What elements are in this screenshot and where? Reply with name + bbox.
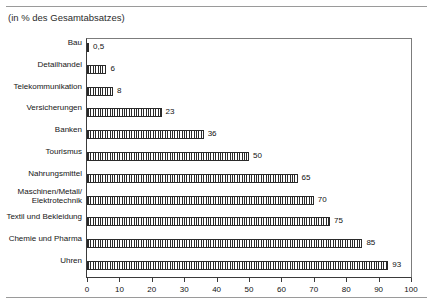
bar-value-label: 93: [392, 257, 401, 273]
bar: [87, 108, 162, 117]
bar-row: Detailhandel6: [0, 60, 433, 80]
x-axis-tick-label: 70: [309, 285, 318, 294]
x-axis-tick: [379, 278, 380, 282]
bar-row: Textil und Bekleidung75: [0, 212, 433, 232]
x-axis-tick-label: 60: [277, 285, 286, 294]
bar-value-label: 70: [318, 192, 327, 208]
x-axis-tick: [184, 278, 185, 282]
bar-value-label: 8: [117, 83, 121, 99]
bar-row: Telekommunikation8: [0, 82, 433, 102]
category-label: Uhren: [0, 256, 82, 266]
x-axis-tick-label: 80: [342, 285, 351, 294]
bar: [87, 239, 362, 248]
bar: [87, 174, 298, 183]
footer-divider: [6, 297, 427, 298]
x-axis-tick-label: 40: [212, 285, 221, 294]
bar-value-label: 75: [334, 213, 343, 229]
category-label: Maschinen/Metall/ Elektrotechnik: [0, 187, 82, 206]
x-axis-tick-label: 50: [245, 285, 254, 294]
header-divider: [6, 6, 427, 7]
bar-value-label: 65: [302, 170, 311, 186]
x-axis-tick: [87, 278, 88, 282]
bar-row: Bau0,5: [0, 38, 433, 58]
bar-value-label: 85: [366, 235, 375, 251]
bar: [87, 65, 106, 74]
category-label: Telekommunikation: [0, 82, 82, 92]
x-axis-tick: [119, 278, 120, 282]
category-label: Versicherungen: [0, 103, 82, 113]
x-axis-tick-label: 100: [404, 285, 417, 294]
x-axis-tick: [281, 278, 282, 282]
x-axis-tick: [217, 278, 218, 282]
bar-value-label: 23: [166, 104, 175, 120]
x-axis-tick-label: 30: [180, 285, 189, 294]
category-label: Detailhandel: [0, 60, 82, 70]
bar-row: Chemie und Pharma85: [0, 234, 433, 254]
x-axis-tick-label: 10: [115, 285, 124, 294]
category-label: Textil und Bekleidung: [0, 212, 82, 222]
category-label: Nahrungsmittel: [0, 169, 82, 179]
x-axis: 0102030405060708090100: [86, 278, 413, 304]
bar-row: Banken36: [0, 125, 433, 145]
bar: [87, 152, 249, 161]
bar-value-label: 0,5: [93, 39, 104, 55]
bar-row: Versicherungen23: [0, 103, 433, 123]
bar-value-label: 36: [208, 126, 217, 142]
category-label: Bau: [0, 38, 82, 48]
category-label: Chemie und Pharma: [0, 234, 82, 244]
bar-row: Uhren93: [0, 256, 433, 276]
bar-chart: Bau0,5Detailhandel6Telekommunikation8Ver…: [0, 30, 433, 292]
x-axis-tick-label: 90: [374, 285, 383, 294]
x-axis-tick: [152, 278, 153, 282]
bar: [87, 261, 388, 270]
bar: [87, 217, 330, 226]
bar-row: Tourismus50: [0, 147, 433, 167]
bar-value-label: 6: [110, 61, 114, 77]
x-axis-tick-label: 20: [147, 285, 156, 294]
bar: [87, 196, 314, 205]
x-axis-tick-label: 0: [85, 285, 89, 294]
category-label: Banken: [0, 125, 82, 135]
bar-row: Maschinen/Metall/ Elektrotechnik70: [0, 191, 433, 211]
chart-subtitle: (in % des Gesamtabsatzes): [8, 12, 125, 23]
bar: [87, 43, 89, 52]
x-axis-tick: [346, 278, 347, 282]
bar-value-label: 50: [253, 148, 262, 164]
x-axis-tick: [249, 278, 250, 282]
category-label: Tourismus: [0, 147, 82, 157]
x-axis-tick: [314, 278, 315, 282]
bar: [87, 87, 113, 96]
x-axis-tick: [411, 278, 412, 282]
bar: [87, 130, 204, 139]
